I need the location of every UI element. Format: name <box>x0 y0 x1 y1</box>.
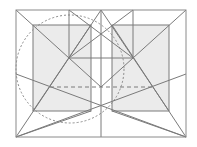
geometric-construction-diagram <box>0 0 197 147</box>
